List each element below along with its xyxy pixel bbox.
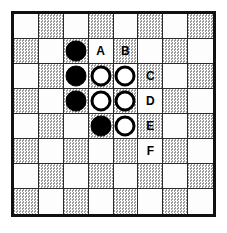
- black-disc[interactable]: [65, 90, 86, 111]
- board-square-r1c2[interactable]: [39, 14, 64, 39]
- black-disc[interactable]: [90, 115, 111, 136]
- board-square-r5c7[interactable]: [163, 114, 188, 139]
- board-square-r2c3[interactable]: [64, 39, 89, 64]
- board-square-r4c8[interactable]: [188, 89, 213, 114]
- board-square-r4c4[interactable]: [89, 89, 114, 114]
- move-label-c: C: [138, 64, 162, 88]
- move-label-a: A: [89, 39, 113, 63]
- board-square-r1c3[interactable]: [64, 14, 89, 39]
- board-square-r3c7[interactable]: [163, 64, 188, 89]
- board-square-r8c2[interactable]: [39, 189, 64, 214]
- board-square-r2c1[interactable]: [14, 39, 39, 64]
- board-frame: ABCDEF: [11, 11, 216, 217]
- board-square-r2c8[interactable]: [188, 39, 213, 64]
- board-square-r2c5[interactable]: B: [114, 39, 139, 64]
- black-disc[interactable]: [65, 40, 86, 61]
- board-square-r6c2[interactable]: [39, 139, 64, 164]
- board-square-r5c8[interactable]: [188, 114, 213, 139]
- white-disc[interactable]: [115, 65, 136, 86]
- board-square-r6c8[interactable]: [188, 139, 213, 164]
- board-square-r7c7[interactable]: [163, 164, 188, 189]
- board-square-r3c4[interactable]: [89, 64, 114, 89]
- board-square-r6c5[interactable]: [114, 139, 139, 164]
- board-square-r6c3[interactable]: [64, 139, 89, 164]
- board-square-r7c5[interactable]: [114, 164, 139, 189]
- white-disc[interactable]: [90, 90, 111, 111]
- board-square-r7c6[interactable]: [138, 164, 163, 189]
- board-square-r5c3[interactable]: [64, 114, 89, 139]
- board-square-r7c3[interactable]: [64, 164, 89, 189]
- board-square-r3c8[interactable]: [188, 64, 213, 89]
- white-disc[interactable]: [115, 90, 136, 111]
- board-square-r2c6[interactable]: [138, 39, 163, 64]
- black-disc[interactable]: [65, 65, 86, 86]
- board-square-r1c8[interactable]: [188, 14, 213, 39]
- board-square-r1c4[interactable]: [89, 14, 114, 39]
- board-square-r8c5[interactable]: [114, 189, 139, 214]
- board-diagram: ABCDEF: [0, 0, 227, 233]
- board-square-r1c7[interactable]: [163, 14, 188, 39]
- board-square-r1c1[interactable]: [14, 14, 39, 39]
- board-square-r4c2[interactable]: [39, 89, 64, 114]
- board-square-r2c7[interactable]: [163, 39, 188, 64]
- board-square-r7c2[interactable]: [39, 164, 64, 189]
- board-square-r5c4[interactable]: [89, 114, 114, 139]
- board-square-r5c2[interactable]: [39, 114, 64, 139]
- board-square-r7c4[interactable]: [89, 164, 114, 189]
- board-grid: ABCDEF: [14, 14, 213, 214]
- board-square-r4c7[interactable]: [163, 89, 188, 114]
- board-square-r4c3[interactable]: [64, 89, 89, 114]
- board-square-r2c2[interactable]: [39, 39, 64, 64]
- board-square-r3c6[interactable]: C: [138, 64, 163, 89]
- board-square-r3c5[interactable]: [114, 64, 139, 89]
- white-disc[interactable]: [115, 115, 136, 136]
- board-square-r3c3[interactable]: [64, 64, 89, 89]
- move-label-e: E: [138, 114, 162, 138]
- board-square-r4c1[interactable]: [14, 89, 39, 114]
- board-square-r8c1[interactable]: [14, 189, 39, 214]
- board-square-r7c8[interactable]: [188, 164, 213, 189]
- board-square-r6c1[interactable]: [14, 139, 39, 164]
- board-square-r1c6[interactable]: [138, 14, 163, 39]
- board-square-r4c6[interactable]: D: [138, 89, 163, 114]
- board-square-r7c1[interactable]: [14, 164, 39, 189]
- board-square-r1c5[interactable]: [114, 14, 139, 39]
- board-square-r3c1[interactable]: [14, 64, 39, 89]
- move-label-b: B: [114, 39, 138, 63]
- board-square-r6c6[interactable]: F: [138, 139, 163, 164]
- board-square-r6c7[interactable]: [163, 139, 188, 164]
- board-square-r8c8[interactable]: [188, 189, 213, 214]
- board-square-r5c6[interactable]: E: [138, 114, 163, 139]
- board-square-r3c2[interactable]: [39, 64, 64, 89]
- board-square-r5c5[interactable]: [114, 114, 139, 139]
- board-square-r5c1[interactable]: [14, 114, 39, 139]
- board-square-r8c6[interactable]: [138, 189, 163, 214]
- board-square-r2c4[interactable]: A: [89, 39, 114, 64]
- board-square-r4c5[interactable]: [114, 89, 139, 114]
- board-square-r8c3[interactable]: [64, 189, 89, 214]
- white-disc[interactable]: [90, 65, 111, 86]
- move-label-f: F: [138, 139, 162, 163]
- board-square-r6c4[interactable]: [89, 139, 114, 164]
- move-label-d: D: [138, 89, 162, 113]
- board-square-r8c7[interactable]: [163, 189, 188, 214]
- board-square-r8c4[interactable]: [89, 189, 114, 214]
